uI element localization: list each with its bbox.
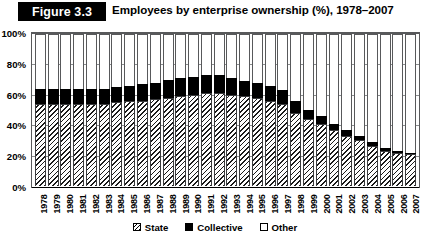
bar-segment-collective-1993	[226, 78, 237, 95]
bar-1991	[201, 34, 212, 186]
bar-segment-other-1992	[214, 34, 225, 75]
bar-2001	[329, 34, 340, 186]
bar-segment-state-1978	[35, 104, 46, 186]
bar-segment-state-1983	[99, 104, 110, 186]
bar-series-group	[33, 34, 418, 186]
bar-segment-state-1986	[137, 101, 148, 186]
bar-segment-state-1998	[290, 113, 301, 186]
figure-header: Figure 3.3 Employees by enterprise owner…	[0, 0, 430, 24]
figure-title: Employees by enterprise ownership (%), 1…	[112, 3, 394, 16]
bar-1978	[35, 34, 46, 186]
bar-segment-state-1993	[226, 95, 237, 186]
bar-segment-other-1978	[35, 34, 46, 89]
bar-segment-other-1997	[277, 34, 288, 90]
bar-segment-collective-1992	[214, 75, 225, 93]
legend-label-state: State	[145, 222, 168, 233]
bar-segment-state-1995	[252, 98, 263, 186]
bar-segment-other-1996	[265, 34, 276, 86]
bar-segment-state-1987	[150, 99, 161, 186]
bar-segment-collective-1987	[150, 83, 161, 100]
bar-segment-collective-1984	[111, 87, 122, 102]
bar-segment-other-1984	[111, 34, 122, 87]
bar-segment-other-1991	[201, 34, 212, 75]
bar-segment-collective-1983	[99, 89, 110, 104]
bar-segment-other-2002	[341, 34, 352, 130]
bar-segment-other-2006	[392, 34, 403, 151]
bar-segment-other-1986	[137, 34, 148, 84]
bar-segment-state-1979	[48, 104, 59, 186]
bar-segment-state-1982	[86, 104, 97, 186]
bar-1985	[124, 34, 135, 186]
y-axis-labels: 100%80%60%40%20%0%	[0, 32, 29, 188]
bar-segment-other-1990	[188, 34, 199, 77]
bar-1982	[86, 34, 97, 186]
bar-2002	[341, 34, 352, 186]
bar-segment-collective-1999	[303, 110, 314, 119]
y-axis-tick-100: 100%	[0, 28, 29, 39]
bar-segment-other-1983	[99, 34, 110, 89]
bar-2007	[405, 34, 416, 186]
bar-segment-collective-1986	[137, 84, 148, 101]
white-swatch-icon	[260, 223, 268, 231]
bar-segment-other-2004	[367, 34, 378, 142]
figure-container: Figure 3.3 Employees by enterprise owner…	[0, 0, 430, 238]
bar-segment-other-1999	[303, 34, 314, 110]
solid-black-swatch-icon	[185, 223, 193, 231]
bar-1984	[111, 34, 122, 186]
bar-segment-state-2007	[405, 154, 416, 186]
plot-frame	[31, 32, 420, 188]
bar-1989	[175, 34, 186, 186]
bar-1980	[60, 34, 71, 186]
bar-segment-collective-1997	[277, 90, 288, 104]
bar-1997	[277, 34, 288, 186]
bar-segment-other-1982	[86, 34, 97, 89]
figure-number-badge: Figure 3.3	[18, 2, 106, 21]
plot-area: 100%80%60%40%20%0% 197819791980198119821…	[0, 26, 430, 198]
bar-segment-other-1998	[290, 34, 301, 101]
bar-segment-state-1996	[265, 101, 276, 186]
gridline-0	[32, 187, 419, 188]
bar-1992	[214, 34, 225, 186]
bar-segment-collective-1990	[188, 77, 199, 95]
legend-item-collective: Collective	[185, 222, 242, 233]
bar-segment-state-1992	[214, 93, 225, 186]
bar-segment-state-2002	[341, 136, 352, 186]
bar-1998	[290, 34, 301, 186]
bar-segment-state-1991	[201, 93, 212, 186]
bar-segment-collective-1988	[163, 80, 174, 98]
bar-segment-other-1980	[60, 34, 71, 89]
bar-segment-collective-1998	[290, 101, 301, 113]
bar-1988	[163, 34, 174, 186]
bar-segment-state-1988	[163, 98, 174, 186]
y-axis-tick-20: 20%	[0, 151, 29, 162]
bar-1993	[226, 34, 237, 186]
bar-segment-other-1985	[124, 34, 135, 86]
bar-segment-state-1999	[303, 119, 314, 186]
legend-item-other: Other	[260, 222, 298, 233]
bar-segment-other-2003	[354, 34, 365, 136]
legend-item-state: State	[133, 222, 168, 233]
bar-segment-other-2001	[329, 34, 340, 124]
bar-2000	[316, 34, 327, 186]
bar-1999	[303, 34, 314, 186]
bar-2003	[354, 34, 365, 186]
y-axis-tick-60: 60%	[0, 90, 29, 101]
bar-segment-state-2001	[329, 130, 340, 186]
bar-segment-state-1981	[73, 104, 84, 186]
bar-segment-collective-1991	[201, 75, 212, 93]
bar-segment-other-1988	[163, 34, 174, 80]
x-axis-tick-2007: 2007	[411, 194, 421, 213]
bar-segment-other-2005	[380, 34, 391, 148]
bar-1986	[137, 34, 148, 186]
chart-legend: StateCollectiveOther	[0, 219, 430, 235]
bar-segment-other-1979	[48, 34, 59, 89]
legend-label-other: Other	[272, 222, 298, 233]
bar-segment-state-2004	[367, 146, 378, 186]
bar-segment-other-2000	[316, 34, 327, 116]
bar-1983	[99, 34, 110, 186]
bar-1990	[188, 34, 199, 186]
hatched-swatch-icon	[133, 223, 141, 231]
bar-segment-collective-2000	[316, 116, 327, 124]
bar-segment-other-1987	[150, 34, 161, 83]
bar-segment-state-2006	[392, 153, 403, 186]
